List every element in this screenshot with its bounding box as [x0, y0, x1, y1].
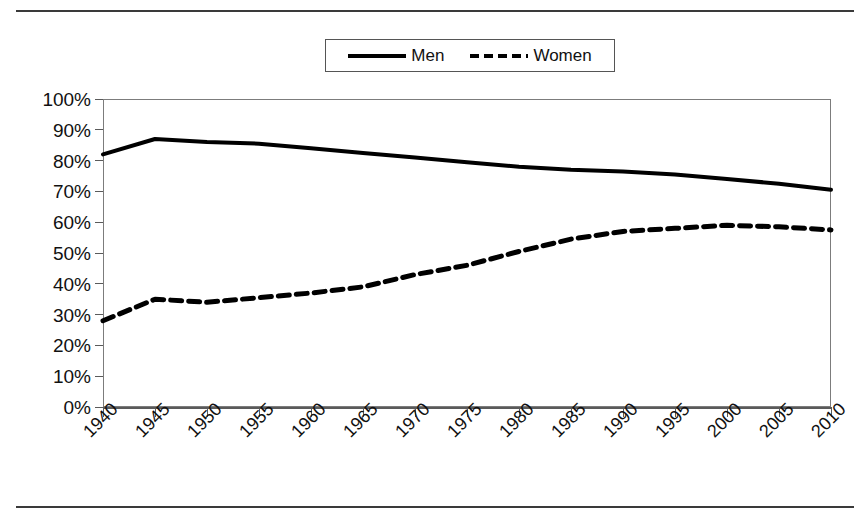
page-rule-bottom: [16, 506, 854, 508]
y-axis-tick: [95, 376, 103, 377]
y-axis-tick-label: 90%: [7, 121, 91, 140]
y-axis-tick: [95, 129, 103, 130]
legend-label-men: Men: [411, 47, 444, 64]
y-axis-tick-label: 30%: [7, 306, 91, 325]
page-rule-top: [16, 10, 854, 12]
series-line-women: [103, 225, 831, 320]
plot-area: [103, 99, 831, 407]
legend-swatch-solid-icon: [348, 54, 406, 58]
legend-swatch-dashed-icon: [470, 54, 528, 58]
y-axis-tick: [95, 407, 103, 408]
y-axis-tick-label: 100%: [7, 90, 91, 109]
chart-page: Men Women 0%10%20%30%40%50%60%70%80%90%1…: [0, 0, 868, 520]
y-axis-tick-label: 80%: [7, 152, 91, 171]
y-axis-tick-label: 70%: [7, 182, 91, 201]
y-axis-tick-label: 10%: [7, 367, 91, 386]
y-axis-tick-label: 0%: [7, 398, 91, 417]
y-axis-labels: 0%10%20%30%40%50%60%70%80%90%100%: [0, 0, 91, 520]
legend-entry-women: Women: [470, 47, 591, 64]
y-axis-tick: [95, 222, 103, 223]
chart-legend: Men Women: [325, 39, 615, 72]
y-axis-tick: [95, 191, 103, 192]
y-axis-tick: [95, 253, 103, 254]
series-line-men: [103, 139, 831, 190]
y-axis-tick-label: 60%: [7, 213, 91, 232]
legend-label-women: Women: [533, 47, 591, 64]
y-axis-tick: [95, 345, 103, 346]
y-axis-tick: [95, 283, 103, 284]
legend-entry-men: Men: [348, 47, 444, 64]
y-axis-tick: [95, 314, 103, 315]
y-axis-tick-label: 40%: [7, 275, 91, 294]
y-axis-tick: [95, 99, 103, 100]
y-axis-tick: [95, 160, 103, 161]
y-axis-tick-label: 20%: [7, 336, 91, 355]
y-axis-tick-label: 50%: [7, 244, 91, 263]
